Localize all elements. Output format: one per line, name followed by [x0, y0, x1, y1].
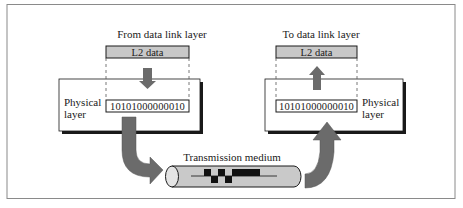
- receiver-l2-data-label: L2 data: [301, 47, 333, 58]
- sender-bits: 10101000000010: [110, 101, 185, 112]
- receiver-layer-label-line2: layer: [362, 108, 384, 120]
- sender-top-label: From data link layer: [117, 28, 207, 40]
- sender-layer-label-line2: layer: [64, 108, 86, 120]
- receiver-layer-label-line1: Physical: [362, 96, 399, 108]
- medium-label: Transmission medium: [183, 151, 281, 163]
- physical-layer-diagram: From data link layer L2 data 10101000000…: [0, 0, 463, 208]
- transmission-medium: Transmission medium: [166, 151, 302, 187]
- receiver-bits: 10101000000010: [279, 101, 354, 112]
- sender-l2-data-label: L2 data: [132, 47, 164, 58]
- cable-end-face: [166, 166, 179, 187]
- receiver-top-label: To data link layer: [282, 28, 359, 40]
- sender-layer-label-line1: Physical: [64, 96, 101, 108]
